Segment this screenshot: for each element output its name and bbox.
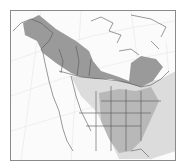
range-map <box>11 11 175 160</box>
range-map-frame <box>10 10 176 161</box>
